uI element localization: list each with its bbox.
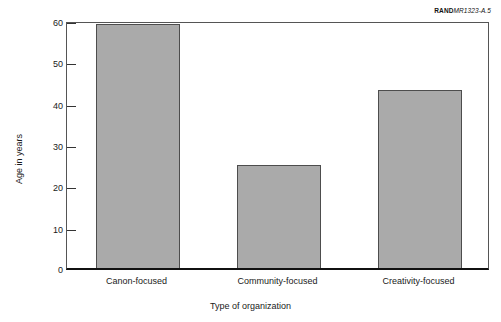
- x-axis-title: Type of organization: [0, 301, 501, 311]
- rand-brand-label: RAND: [434, 7, 453, 14]
- y-axis-tick: 20: [67, 188, 76, 189]
- figure-bar-chart: RANDMR1323-A.5 Age in years 010203040506…: [0, 0, 501, 322]
- bar: [96, 24, 180, 268]
- y-axis-tick: 60: [67, 23, 76, 24]
- rand-report-number: MR1323-A.5: [454, 7, 492, 14]
- x-axis-tick-label: Community-focused: [207, 276, 348, 287]
- bar: [237, 165, 321, 268]
- x-axis-tick-label: Creativity-focused: [348, 276, 489, 287]
- y-axis-tick: 30: [67, 147, 76, 148]
- y-axis-tick: 40: [67, 106, 76, 107]
- x-axis-tick-label: Canon-focused: [66, 276, 207, 287]
- y-axis-tick-label: 60: [53, 18, 63, 29]
- bar: [378, 90, 462, 268]
- y-axis-tick-label: 40: [53, 101, 63, 112]
- y-axis-tick-label: 20: [53, 183, 63, 194]
- y-axis-tick: 50: [67, 64, 76, 65]
- y-axis-tick-label: 0: [58, 265, 63, 276]
- y-axis-tick-label: 50: [53, 59, 63, 70]
- y-axis-title: Age in years: [14, 170, 24, 184]
- y-axis-tick-label: 10: [53, 225, 63, 236]
- rand-document-identifier: RANDMR1323-A.5: [434, 7, 491, 14]
- y-axis-tick: 10: [67, 230, 76, 231]
- y-axis-tick-label: 30: [53, 142, 63, 153]
- plot-area: 0102030405060: [66, 22, 489, 270]
